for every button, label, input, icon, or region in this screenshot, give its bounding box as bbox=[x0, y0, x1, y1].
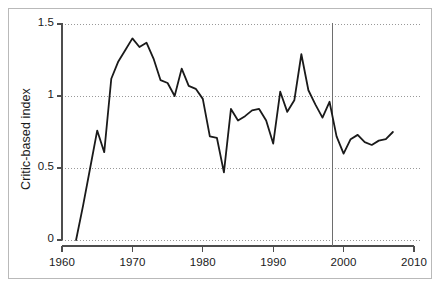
y-tick-label-0.5: 0.5 bbox=[14, 160, 54, 172]
y-tick-label-0: 0 bbox=[14, 232, 54, 244]
x-tick-label-2010: 2010 bbox=[384, 256, 440, 268]
x-tick-marks-group bbox=[62, 246, 414, 252]
figure-container: Critic-based index 00.511.5 196019701980… bbox=[0, 0, 440, 287]
y-tick-label-1.5: 1.5 bbox=[14, 16, 54, 28]
y-tick-label-1: 1 bbox=[14, 88, 54, 100]
chart-canvas bbox=[0, 0, 440, 287]
x-tick-label-1980: 1980 bbox=[173, 256, 233, 268]
gridlines-group bbox=[62, 24, 421, 240]
x-tick-label-1960: 1960 bbox=[32, 256, 92, 268]
x-tick-label-2000: 2000 bbox=[314, 256, 374, 268]
x-tick-label-1970: 1970 bbox=[102, 256, 162, 268]
data-line-series bbox=[76, 38, 393, 240]
axis-lines-group bbox=[62, 23, 414, 246]
x-tick-label-1990: 1990 bbox=[243, 256, 303, 268]
